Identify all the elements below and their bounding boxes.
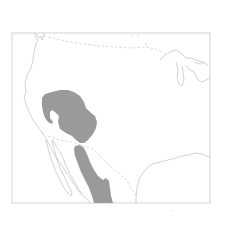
range-map xyxy=(0,0,230,230)
map-background xyxy=(0,0,230,230)
